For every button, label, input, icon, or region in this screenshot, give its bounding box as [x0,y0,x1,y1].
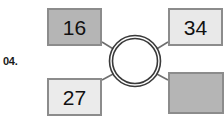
node-box-bottom-right-empty[interactable] [168,72,224,114]
node-value-top-right: 34 [184,17,207,38]
hub-circle [110,36,161,87]
hub-circle-inner-ring [113,39,158,84]
node-value-top-left: 16 [63,17,86,38]
node-box-top-right[interactable]: 34 [168,8,223,46]
node-value-bottom-left: 27 [63,87,86,108]
question-figure: 04. 16 34 27 [0,0,224,139]
node-box-top-left[interactable]: 16 [47,8,102,46]
node-box-bottom-left[interactable]: 27 [47,78,102,116]
